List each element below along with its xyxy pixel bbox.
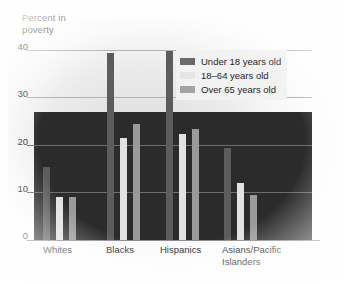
x-axis-label: Asians/Pacific Islanders — [222, 244, 281, 267]
legend-item-label: 18–64 years old — [201, 70, 269, 81]
bar — [250, 195, 257, 240]
y-axis-title: Percent in poverty — [22, 12, 66, 35]
legend-item: 18–64 years old — [180, 68, 281, 82]
bar — [166, 51, 173, 240]
y-tick-label-30: 30 — [17, 88, 28, 99]
bar-group — [43, 51, 77, 240]
bar — [224, 148, 231, 240]
bar — [69, 197, 76, 240]
legend-swatch-over-65 — [180, 86, 195, 93]
legend-item: Over 65 years old — [180, 82, 281, 96]
x-axis-label: Whites — [43, 244, 72, 256]
bar-group — [107, 51, 141, 240]
poverty-bar-chart-figure: Percent in poverty 010203040 WhitesBlack… — [0, 0, 344, 284]
axis-baseline — [27, 240, 320, 241]
y-tick-label-0: 0 — [23, 230, 28, 241]
x-axis-labels: WhitesBlacksHispanicsAsians/Pacific Isla… — [34, 244, 324, 282]
bar-group-bars — [107, 51, 146, 240]
x-axis-label: Blacks — [106, 244, 134, 256]
legend-item-label: Under 18 years old — [201, 56, 281, 67]
legend-item-label: Over 65 years old — [201, 84, 276, 95]
y-tick-label-40: 40 — [17, 41, 28, 52]
bar — [192, 129, 199, 240]
chart-legend: Under 18 years old18–64 years oldOver 65… — [176, 50, 287, 100]
legend-item: Under 18 years old — [180, 54, 281, 68]
bar — [120, 138, 127, 240]
y-tick-label-20: 20 — [17, 135, 28, 146]
legend-swatch-under-18 — [180, 58, 195, 65]
bar — [133, 124, 140, 240]
y-tick-label-10: 10 — [17, 182, 28, 193]
bar — [237, 183, 244, 240]
bar — [56, 197, 63, 240]
bar — [179, 134, 186, 240]
x-axis-label: Hispanics — [160, 244, 201, 256]
bar — [107, 53, 114, 240]
bar-group-bars — [43, 51, 82, 240]
bar — [43, 167, 50, 240]
legend-swatch-18-64 — [180, 72, 195, 79]
